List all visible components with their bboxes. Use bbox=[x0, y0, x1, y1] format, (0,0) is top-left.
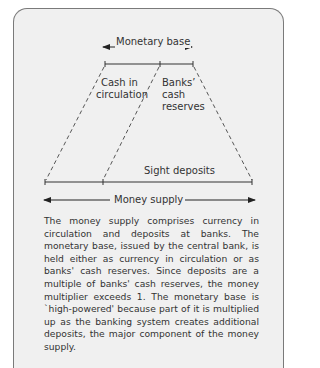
cash-in-circulation-label-line2: circulation bbox=[96, 89, 148, 101]
banks-cash-reserves-label-line1: Banks’ bbox=[162, 77, 196, 89]
monetary-base-segment bbox=[105, 61, 193, 67]
banks-cash-reserves-label-line2: cash bbox=[162, 89, 185, 101]
sight-deposits-label: Sight deposits bbox=[144, 165, 215, 177]
money-supply-segment bbox=[45, 179, 252, 185]
cash-in-circulation-label-line1: Cash in bbox=[101, 77, 138, 89]
monetary-base-label: Monetary base bbox=[115, 36, 191, 48]
projection-lines bbox=[46, 67, 252, 180]
banks-cash-reserves-label-line3: reserves bbox=[162, 101, 205, 113]
money-supply-label: Money supply bbox=[112, 194, 185, 206]
caption-paragraph: The money supply comprises currency in c… bbox=[44, 215, 259, 354]
